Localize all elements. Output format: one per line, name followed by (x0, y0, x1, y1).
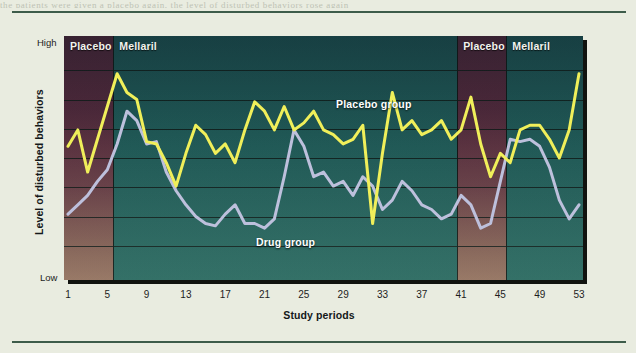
placebo-group-line (68, 74, 579, 224)
drug-group-label: Drug group (256, 236, 315, 248)
x-tick-5: 5 (95, 289, 119, 300)
x-tick-49: 49 (528, 289, 552, 300)
figure-container: Placebo group Drug group PlaceboMellaril… (12, 13, 626, 341)
band-label-mellaril-1: Mellaril (119, 40, 157, 52)
placebo-group-label: Placebo group (336, 98, 412, 110)
y-axis-low-label: Low (40, 272, 57, 283)
series-lines (64, 36, 583, 280)
page-text-sliver: the patients were given a placebo again,… (0, 0, 636, 8)
x-tick-41: 41 (449, 289, 473, 300)
y-axis-high-label: High (37, 37, 57, 48)
band-label-mellaril-3: Mellaril (512, 40, 550, 52)
x-tick-13: 13 (174, 289, 198, 300)
x-tick-33: 33 (370, 289, 394, 300)
x-tick-53: 53 (567, 289, 591, 300)
x-tick-21: 21 (253, 289, 277, 300)
band-label-placebo-0: Placebo (70, 40, 112, 52)
plot-area: Placebo group Drug group PlaceboMellaril… (64, 36, 583, 280)
x-tick-17: 17 (213, 289, 237, 300)
x-tick-25: 25 (292, 289, 316, 300)
x-tick-1: 1 (56, 289, 80, 300)
x-tick-9: 9 (135, 289, 159, 300)
x-tick-29: 29 (331, 289, 355, 300)
x-axis-title: Study periods (12, 309, 626, 321)
x-tick-45: 45 (488, 289, 512, 300)
y-axis-title: Level of disturbed behaviors (33, 95, 45, 235)
bottom-rule (12, 341, 626, 343)
band-label-placebo-2: Placebo (463, 40, 505, 52)
x-tick-37: 37 (410, 289, 434, 300)
